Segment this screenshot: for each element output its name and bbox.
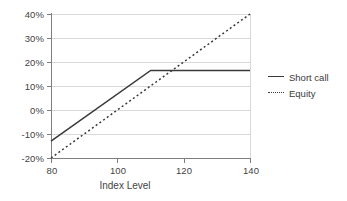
legend-item-short-call[interactable]: Short call xyxy=(268,70,347,84)
x-tick-label-120: 120 xyxy=(169,165,199,176)
legend-label-short-call: Short call xyxy=(289,72,329,83)
x-tick-label-80: 80 xyxy=(37,165,67,176)
x-tick-label-140: 140 xyxy=(236,165,266,176)
x-tick-label-100: 100 xyxy=(103,165,133,176)
dotted-line-marker-icon xyxy=(268,88,284,98)
legend-item-equity[interactable]: Equity xyxy=(268,86,347,100)
y-tick-label-0: 0% xyxy=(8,105,44,116)
solid-line-marker-icon xyxy=(268,72,284,82)
y-tick-label-30: 30% xyxy=(8,33,44,44)
gridlines xyxy=(51,15,250,135)
y-tick-label-neg10: -10% xyxy=(4,129,44,140)
legend-label-equity: Equity xyxy=(289,88,315,99)
y-tick-label-40: 40% xyxy=(8,9,44,20)
y-tick-label-neg20: -20% xyxy=(4,153,44,164)
y-tick-label-10: 10% xyxy=(8,81,44,92)
chart-figure: 40% 30% 20% 10% 0% -10% -20% 80 100 120 … xyxy=(0,0,347,201)
y-tick-marks xyxy=(47,15,51,159)
series-short-call xyxy=(51,70,250,141)
y-tick-label-20: 20% xyxy=(8,57,44,68)
chart-legend: Short call Equity xyxy=(268,70,347,102)
x-axis-title: Index Level xyxy=(0,180,250,191)
